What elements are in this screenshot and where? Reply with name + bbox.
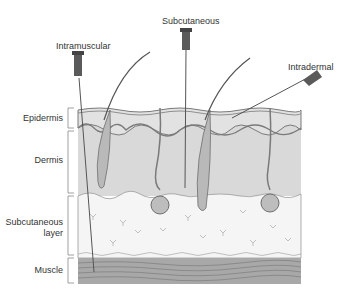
skin-diagram	[0, 0, 343, 295]
intradermal-label: Intradermal	[288, 62, 334, 72]
sweat-gland	[261, 194, 279, 212]
muscle-label: Muscle	[34, 265, 63, 275]
intramuscular-label: Intramuscular	[56, 41, 111, 51]
dermis-label: Dermis	[35, 155, 64, 165]
sweat-gland	[151, 196, 169, 214]
subcutaneous-label: Subcutaneous	[162, 16, 220, 26]
subcutaneous-layer-label-line1: Subcutaneous	[5, 217, 63, 227]
epidermis-label: Epidermis	[23, 113, 63, 123]
subcutaneous-layer-label-line2: layer	[43, 228, 63, 238]
